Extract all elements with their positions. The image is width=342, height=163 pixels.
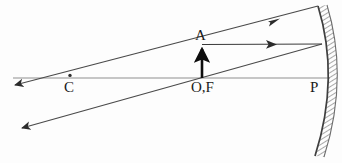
ray-1-direction-arrowhead-icon (268, 18, 280, 26)
mirror-hatch-band (315, 5, 337, 157)
ray-3-line (202, 44, 322, 45)
centre-of-curvature-marker (68, 74, 71, 77)
concave-mirror-group (315, 5, 337, 157)
centre-of-curvature-dot (68, 74, 71, 77)
label-pole-focus: O,F (191, 80, 214, 95)
label-object-tip-a: A (195, 28, 206, 43)
label-mirror-vertex-p: P (310, 80, 318, 95)
ray-parallel-from-A (202, 40, 322, 49)
ray-diagram-svg (0, 0, 342, 163)
ray-diagram-canvas: A O,F C P (0, 0, 342, 163)
label-centre-of-curvature: C (64, 80, 74, 95)
